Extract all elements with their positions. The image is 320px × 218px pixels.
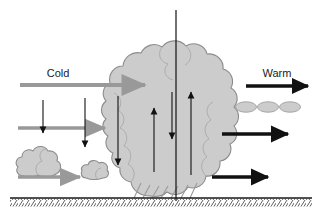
lenticular-cloud xyxy=(258,102,279,112)
cumulus-cloud-large xyxy=(16,147,60,178)
warm-label: Warm xyxy=(263,67,292,79)
lenticular-cloud-row xyxy=(236,102,301,112)
diagram-canvas: Cold Warm xyxy=(0,0,320,218)
lenticular-cloud xyxy=(280,102,301,112)
cold-label: Cold xyxy=(47,67,70,79)
ground-surface xyxy=(10,198,312,207)
cumulus-cloud-small xyxy=(81,161,108,180)
diagram-figure: Cold Warm xyxy=(0,0,320,218)
lenticular-cloud xyxy=(236,102,257,112)
cumulonimbus-cloud xyxy=(102,41,239,196)
